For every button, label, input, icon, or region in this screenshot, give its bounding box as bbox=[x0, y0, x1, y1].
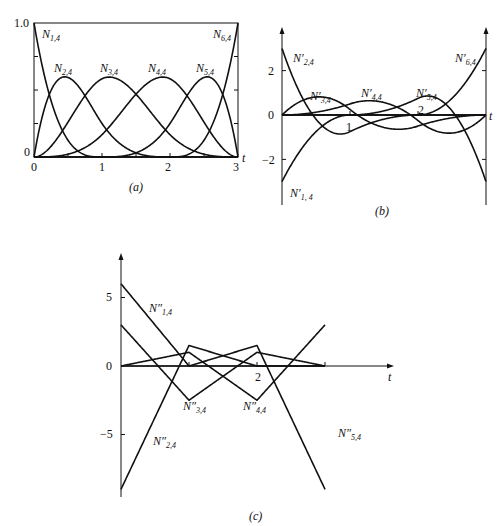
panel-b-ytick-2: 2 bbox=[268, 64, 274, 78]
panel-a-xtick-3: 3 bbox=[233, 160, 239, 174]
panel-c-ytick-neg5: −5 bbox=[100, 427, 113, 441]
series-line-a-1 bbox=[34, 23, 238, 157]
panel-a-xtick-0: 0 bbox=[31, 160, 37, 174]
series-label-b-6: N′6,4 bbox=[454, 51, 476, 67]
series-label-b-2: N′2,4 bbox=[292, 51, 314, 67]
panel-c-xlabel: t bbox=[388, 370, 392, 384]
series-line-a-5 bbox=[34, 77, 238, 157]
series-line-c-4 bbox=[121, 325, 325, 400]
panel-b-right-arrow bbox=[484, 27, 489, 34]
panel-b-left-arrow bbox=[280, 27, 285, 34]
bspline-figure: 1.0 0 0 1 2 3 t (a) N1,4N2,4N3,4N4,4N5,4… bbox=[0, 0, 504, 526]
panel-b-caption: (b) bbox=[375, 204, 389, 218]
series-line-a-3 bbox=[34, 77, 238, 157]
panel-b-curves bbox=[282, 48, 486, 181]
series-line-a-4 bbox=[34, 77, 238, 157]
panel-b-xlabel: t bbox=[489, 109, 493, 123]
series-label-b-3: N′3,4 bbox=[309, 89, 331, 105]
series-label-c-5: N″5,4 bbox=[337, 426, 361, 442]
panel-c-xtick-2: 2 bbox=[255, 370, 261, 384]
series-line-a-6 bbox=[34, 23, 238, 157]
series-line-c-2 bbox=[121, 345, 325, 489]
series-line-b-5 bbox=[282, 96, 486, 182]
panel-a-series-labels: N1,4N2,4N3,4N4,4N5,4N6,4 bbox=[41, 27, 231, 77]
panel-b-xtick-1: 1 bbox=[346, 120, 352, 134]
panel-c-caption: (c) bbox=[249, 509, 262, 523]
series-line-c-3 bbox=[121, 325, 325, 400]
panel-c-second-derivatives: 5 0 −5 2 t (c) N″1,4N″2,4N″3,4N″4,4N″5,4 bbox=[100, 253, 394, 523]
panel-a-xtick-2: 2 bbox=[165, 160, 171, 174]
panel-c-x-arrow bbox=[387, 364, 394, 369]
panel-a-xtick-1: 1 bbox=[99, 160, 105, 174]
series-label-b-4: N′4,4 bbox=[360, 86, 382, 102]
panel-b-ytick-0: 0 bbox=[268, 108, 274, 122]
series-label-c-2: N″2,4 bbox=[152, 434, 176, 450]
series-label-a-4: N4,4 bbox=[147, 61, 166, 77]
series-line-c-5 bbox=[121, 345, 325, 489]
series-label-a-3: N3,4 bbox=[99, 61, 118, 77]
series-label-a-1: N1,4 bbox=[41, 27, 60, 43]
panel-c-ytick-5: 5 bbox=[106, 290, 112, 304]
panel-a-ytick-zero: 0 bbox=[24, 145, 30, 159]
series-label-c-4: N″4,4 bbox=[242, 399, 266, 415]
panel-c-y-arrow bbox=[119, 253, 124, 260]
panel-a-ytick-top: 1.0 bbox=[14, 16, 29, 30]
series-label-c-3: N″3,4 bbox=[182, 399, 206, 415]
panel-a-frame bbox=[34, 23, 238, 157]
series-label-b-1: N′1, 4 bbox=[289, 186, 313, 202]
panel-a-caption: (a) bbox=[129, 180, 143, 194]
series-line-b-1 bbox=[282, 115, 486, 182]
panel-a-basis-functions: 1.0 0 0 1 2 3 t (a) N1,4N2,4N3,4N4,4N5,4… bbox=[14, 16, 246, 194]
series-line-c-1 bbox=[121, 284, 325, 366]
panel-a-xlabel: t bbox=[242, 151, 246, 165]
series-label-b-5: N′5,4 bbox=[415, 86, 437, 102]
panel-b-first-derivatives: 2 0 −2 1 2 t (b) N′1, 4N′2,4N′3,4N′4,4N′… bbox=[262, 27, 493, 218]
series-label-c-1: N″1,4 bbox=[148, 301, 172, 317]
panel-c-ytick-0: 0 bbox=[106, 359, 112, 373]
series-line-a-2 bbox=[34, 77, 238, 157]
series-label-a-6: N6,4 bbox=[212, 27, 231, 43]
series-label-a-5: N5,4 bbox=[195, 61, 214, 77]
panel-b-xtick-2: 2 bbox=[418, 103, 424, 117]
series-label-a-2: N2,4 bbox=[53, 61, 72, 77]
panel-b-ytick-neg2: −2 bbox=[262, 153, 275, 167]
panel-a-curves bbox=[34, 23, 238, 157]
